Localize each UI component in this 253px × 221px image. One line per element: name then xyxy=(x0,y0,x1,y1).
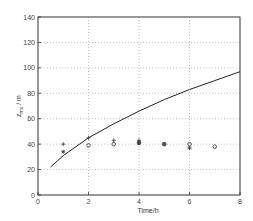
y-tick-label: 0 xyxy=(31,192,35,199)
marker-star xyxy=(162,142,166,146)
marker-plus xyxy=(112,138,116,142)
marker-plus xyxy=(61,142,65,146)
x-tick-label: 6 xyxy=(188,198,192,205)
y-tick-label: 20 xyxy=(27,166,35,173)
x-tick-label: 4 xyxy=(137,198,141,205)
series-layer xyxy=(51,72,240,167)
marker-star xyxy=(137,141,141,145)
y-tick-label: 60 xyxy=(27,115,35,122)
model-curve xyxy=(51,72,240,167)
marker-star xyxy=(188,146,192,150)
marker-star xyxy=(61,150,65,154)
x-tick-label: 8 xyxy=(238,198,242,205)
gridlines xyxy=(38,17,240,195)
x-tick-label: 0 xyxy=(36,198,40,205)
marker-circle xyxy=(213,145,217,149)
y-axis-label: zmv / m xyxy=(15,95,24,117)
y-tick-label: 140 xyxy=(23,14,35,21)
y-tick-label: 120 xyxy=(23,39,35,46)
y-tick-label: 80 xyxy=(27,90,35,97)
chart: 02468020406080100120140 Time/h zmv / m xyxy=(0,0,253,221)
x-axis-label: Time/h xyxy=(137,207,158,214)
y-tick-label: 40 xyxy=(27,141,35,148)
y-tick-label: 100 xyxy=(23,64,35,71)
plot-frame xyxy=(38,17,240,195)
svg-text:zmv / m: zmv / m xyxy=(15,95,24,117)
x-tick-label: 2 xyxy=(87,198,91,205)
